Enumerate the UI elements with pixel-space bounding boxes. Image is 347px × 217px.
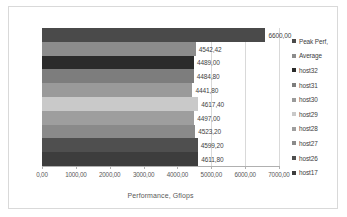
- x-tick-label: 7000,00: [268, 171, 289, 178]
- legend-label: Average: [299, 52, 322, 59]
- chart-legend: Peak Perf,Averagehost32host31host30host2…: [292, 34, 347, 180]
- x-tick-label: 4000,00: [167, 171, 188, 178]
- bar[interactable]: [42, 125, 195, 139]
- bar[interactable]: [42, 69, 194, 83]
- x-axis-line: [42, 166, 279, 167]
- legend-item[interactable]: Peak Perf,: [292, 34, 347, 49]
- tick-mark: [211, 166, 212, 169]
- legend-item[interactable]: Average: [292, 49, 347, 64]
- bar[interactable]: [42, 97, 198, 111]
- bar-value-label: 4441,80: [192, 87, 218, 94]
- bar-value-label: 6600,00: [265, 31, 291, 38]
- bar-row: 6600,00: [42, 28, 279, 42]
- legend-item[interactable]: host31: [292, 78, 347, 93]
- legend-label: host29: [299, 111, 318, 118]
- legend-swatch-icon: [292, 156, 296, 160]
- bar[interactable]: [42, 56, 194, 70]
- legend-swatch-icon: [292, 68, 296, 72]
- bar[interactable]: [42, 138, 198, 152]
- bar-row: 4611,80: [42, 152, 279, 166]
- legend-item[interactable]: host29: [292, 107, 347, 122]
- legend-label: host17: [299, 169, 318, 176]
- tick-mark: [42, 166, 43, 169]
- bar-row: 4441,80: [42, 83, 279, 97]
- legend-swatch-icon: [292, 39, 296, 43]
- x-tick-label: 5000,00: [201, 171, 222, 178]
- bar-value-label: 4617,40: [198, 100, 224, 107]
- legend-swatch-icon: [292, 54, 296, 58]
- legend-label: host26: [299, 155, 318, 162]
- legend-swatch-icon: [292, 98, 296, 102]
- bar-value-label: 4484,80: [194, 73, 220, 80]
- x-tick-label: 6000,00: [234, 171, 255, 178]
- bar-row: 4523,20: [42, 125, 279, 139]
- bar-value-label: 4611,80: [198, 156, 223, 163]
- legend-swatch-icon: [292, 127, 296, 131]
- bar-series: 6600,004542,424489,004484,804441,804617,…: [42, 28, 279, 166]
- bar-value-label: 4599,20: [198, 142, 224, 149]
- bar-row: 4484,80: [42, 69, 279, 83]
- x-axis-title: Performance, Gflops: [42, 192, 279, 199]
- x-tick-label: 1000,00: [65, 171, 86, 178]
- legend-swatch-icon: [292, 171, 296, 175]
- legend-item[interactable]: host30: [292, 92, 347, 107]
- tick-mark: [177, 166, 178, 169]
- legend-label: host27: [299, 140, 318, 147]
- tick-mark: [144, 166, 145, 169]
- gridline: [279, 28, 280, 166]
- legend-label: host30: [299, 96, 318, 103]
- legend-item[interactable]: host27: [292, 136, 347, 151]
- x-tick-label: 0,00: [36, 171, 47, 178]
- legend-item[interactable]: host28: [292, 122, 347, 137]
- bar-row: 4617,40: [42, 97, 279, 111]
- bar-value-label: 4489,00: [194, 59, 220, 66]
- plot-area: 6600,004542,424489,004484,804441,804617,…: [42, 28, 279, 166]
- bar-value-label: 4523,20: [195, 128, 221, 135]
- x-tick-label: 2000,00: [99, 171, 120, 178]
- legend-swatch-icon: [292, 83, 296, 87]
- bar-row: 4497,00: [42, 111, 279, 125]
- legend-label: host31: [299, 82, 318, 89]
- legend-swatch-icon: [292, 112, 296, 116]
- bar-row: 4599,20: [42, 138, 279, 152]
- legend-item[interactable]: host26: [292, 151, 347, 166]
- legend-item[interactable]: host32: [292, 63, 347, 78]
- x-tick-label: 3000,00: [133, 171, 154, 178]
- legend-label: host28: [299, 125, 318, 132]
- legend-item[interactable]: host17: [292, 165, 347, 180]
- bar[interactable]: [42, 152, 198, 166]
- bar-value-label: 4542,42: [196, 45, 222, 52]
- bar[interactable]: [42, 28, 265, 42]
- bar[interactable]: [42, 42, 196, 56]
- tick-mark: [76, 166, 77, 169]
- tick-mark: [110, 166, 111, 169]
- legend-swatch-icon: [292, 141, 296, 145]
- legend-label: host32: [299, 67, 318, 74]
- tick-mark: [245, 166, 246, 169]
- tick-mark: [279, 166, 280, 169]
- bar-row: 4542,42: [42, 42, 279, 56]
- chart-container: 6600,004542,424489,004484,804441,804617,…: [8, 6, 338, 209]
- bar-row: 4489,00: [42, 56, 279, 70]
- bar-value-label: 4497,00: [194, 114, 220, 121]
- bar[interactable]: [42, 111, 194, 125]
- legend-label: Peak Perf,: [299, 38, 328, 45]
- bar[interactable]: [42, 83, 192, 97]
